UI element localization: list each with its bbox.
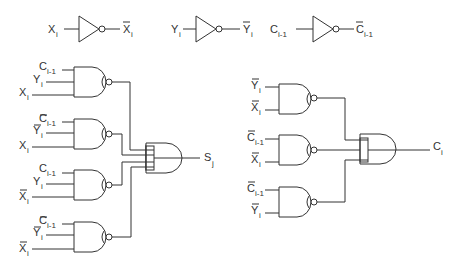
signal-label: C [356,23,364,35]
inverter-c: C i-1 C i-1 [270,16,373,42]
signal-label: X [19,86,27,98]
nand-gate-icon [74,119,106,149]
wire [311,147,317,153]
nand-gate-icon [74,170,106,200]
wire [106,79,112,85]
signal-label: i-1 [47,67,56,76]
signal-label: Y [171,23,179,35]
signal-label: X [251,153,259,165]
signal-label: i-1 [278,30,287,39]
signal-label: Y [33,124,41,136]
signal-label: i [56,30,58,39]
nand-gate-icon [279,187,311,217]
signal-label: C [39,162,47,174]
wire [216,26,222,32]
inverter-icon [196,16,216,42]
signal-label: i-1 [255,138,264,147]
inverter-x: X i X i [48,16,133,42]
signal-label: X [48,23,56,35]
wire [99,26,105,32]
signal-label: X [123,23,131,35]
sum-nand-gate-2: C i-1 Y i X i [19,112,146,155]
inverter-y: Y i Y i [171,16,253,42]
signal-label: X [19,139,27,151]
wire [311,199,317,205]
signal-label: i [41,182,43,191]
nand-gate-icon [74,67,106,97]
signal-label: j [211,159,214,168]
wire [112,162,146,185]
sum-nand-gate-3: C i-1 Y i X i [19,162,146,206]
signal-label: C [247,131,255,143]
signal-label: i [259,211,261,220]
signal-label: i [27,93,29,102]
signal-label: i [259,108,261,117]
signal-label: i [27,197,29,206]
wire [333,26,339,32]
nand-gate-icon [279,135,311,165]
signal-label: i [259,86,261,95]
carry-output-label: C [433,140,441,152]
logic-diagram: X i X i Y i Y i C i-1 C i-1 C i-1 Y [0,0,457,268]
carry-nand-gate-3: C i-1 Y i [247,160,360,220]
signal-label: i [441,148,443,157]
signal-label: i-1 [47,119,56,128]
signal-label: C [39,214,47,226]
wire [106,131,112,137]
signal-label: i [41,233,43,242]
signal-label: i-1 [364,30,373,39]
carry-nand-gate-2: C i-1 X i [247,131,368,169]
signal-label: X [251,101,259,113]
signal-label: Y [251,204,259,216]
nand-gate-icon [279,84,311,114]
signal-label: Y [33,73,41,85]
signal-label: Y [33,175,41,187]
wire [112,134,146,155]
signal-label: C [270,23,278,35]
signal-label: C [247,182,255,194]
signal-label: i-1 [47,169,56,178]
signal-label: i [41,131,43,140]
carry-nand-gate-1: Y i X i [251,79,360,140]
signal-label: i [179,30,181,39]
wire [311,95,317,101]
nand-gate-icon [74,222,106,252]
sum-output-label: S [204,151,211,163]
signal-label: i [259,160,261,169]
signal-label: C [39,60,47,72]
wire [317,98,360,140]
signal-label: C [39,112,47,124]
wire [106,182,112,188]
wire [112,167,146,237]
inverter-icon [79,16,99,42]
signal-label: i [131,30,133,39]
signal-label: Y [243,23,251,35]
signal-label: i [251,30,253,39]
signal-label: Y [33,226,41,238]
wire [106,234,112,240]
signal-label: i-1 [47,221,56,230]
wire [317,160,360,202]
carry-and-gate: C i [360,134,443,164]
inverter-icon [313,16,333,42]
signal-label: i-1 [255,189,264,198]
signal-label: Y [251,79,259,91]
signal-label: i [27,249,29,258]
signal-label: i [27,146,29,155]
wire [112,82,146,150]
signal-label: X [19,190,27,202]
signal-label: i [41,80,43,89]
sum-and-gate: S j [146,143,214,173]
signal-label: X [19,242,27,254]
